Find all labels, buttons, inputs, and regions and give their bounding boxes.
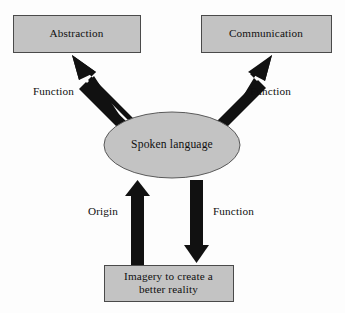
node-spoken-language-shape[interactable] <box>104 112 240 178</box>
edge-label-communication-function: Function <box>250 85 291 97</box>
diagram-graphics <box>0 0 345 313</box>
node-imagery-shape[interactable] <box>105 266 234 302</box>
node-abstraction-shape[interactable] <box>14 16 141 53</box>
node-communication-shape[interactable] <box>202 16 332 53</box>
edge-label-imagery-function: Function <box>213 205 254 217</box>
edge-label-abstraction-function: Function <box>33 85 74 97</box>
edge-label-origin: Origin <box>88 205 118 217</box>
diagram-canvas: Abstraction Communication Spoken languag… <box>0 0 345 313</box>
arrow-function-down <box>184 180 209 263</box>
arrow-origin-up <box>125 180 150 265</box>
